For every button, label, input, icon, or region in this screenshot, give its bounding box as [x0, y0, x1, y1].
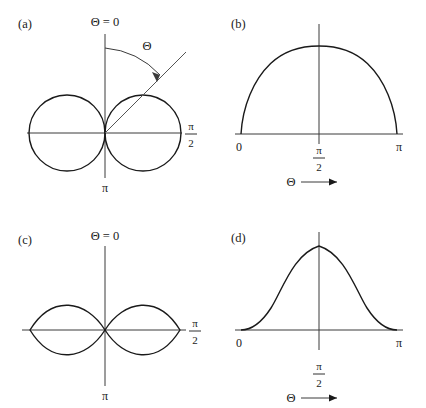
panel-c-theta-zero-label: Θ = 0: [91, 229, 120, 243]
svg-text:π: π: [316, 144, 322, 156]
panel-a-pi-over-2-label: π 2: [185, 120, 197, 149]
panel-a-pi-label: π: [102, 181, 108, 195]
svg-text:Θ: Θ: [286, 175, 295, 189]
svg-text:π: π: [316, 360, 322, 372]
svg-text:2: 2: [316, 377, 322, 389]
panel-a-angle-arc: [105, 48, 160, 75]
panel-b-axis-arrowhead: [329, 179, 337, 186]
panel-d-label: (d): [231, 231, 246, 245]
panel-d-tick-0: 0: [236, 336, 242, 350]
svg-text:2: 2: [192, 334, 198, 346]
figure-container: (a) Θ = 0 Θ π π: [0, 0, 426, 408]
panel-c-pi-over-2-label: π 2: [189, 317, 201, 346]
svg-text:2: 2: [316, 161, 322, 173]
panel-c: (c) Θ = 0 π π 2: [0, 204, 213, 408]
panel-b-axis-title: Θ: [286, 175, 337, 189]
svg-text:Θ: Θ: [286, 391, 295, 405]
panel-a-angle-ray: [105, 52, 186, 133]
panel-d-tick-pi: π: [396, 336, 402, 350]
panel-b-label: (b): [231, 17, 246, 31]
panel-c-pi-label: π: [102, 389, 108, 403]
panel-c-label: (c): [18, 233, 32, 247]
panel-b-tick-0: 0: [236, 140, 242, 154]
panel-a: (a) Θ = 0 Θ π π: [0, 0, 213, 204]
panel-d-axis-title: Θ: [286, 391, 337, 405]
panel-b-tick-pi: π: [396, 140, 402, 154]
svg-text:π: π: [192, 317, 198, 329]
panel-d-axis-arrowhead: [329, 395, 337, 402]
svg-text:π: π: [188, 120, 194, 132]
svg-text:2: 2: [188, 137, 194, 149]
panel-d: (d) 0 π π 2 Θ: [213, 204, 426, 408]
panel-a-label: (a): [18, 17, 32, 31]
panel-d-tick-pi-over-2: π 2: [313, 360, 325, 389]
panel-a-theta-zero-label: Θ = 0: [91, 15, 120, 29]
panel-a-theta-label: Θ: [142, 39, 151, 53]
panel-b-tick-pi-over-2: π 2: [313, 144, 325, 173]
panel-b: (b) 0 π π 2 Θ: [213, 0, 426, 204]
